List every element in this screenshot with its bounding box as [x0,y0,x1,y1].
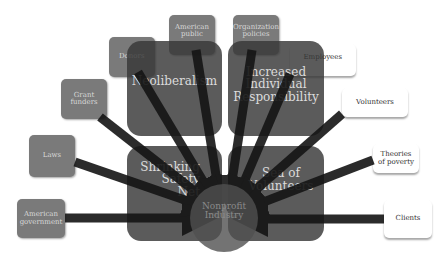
hub-label: Nonprofit Industry [200,202,248,221]
diagram-canvas: American government Laws Grant funders D… [0,0,448,267]
hub-nonprofit-industry: Nonprofit Industry [190,184,258,252]
